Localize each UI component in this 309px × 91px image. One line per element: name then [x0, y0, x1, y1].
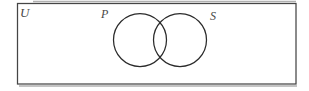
set-s-label: S — [210, 10, 216, 22]
universal-set-rectangle — [18, 4, 297, 85]
set-s-circle — [154, 14, 207, 67]
venn-diagram-canvas — [0, 0, 309, 91]
set-p-circle — [114, 14, 167, 67]
universal-set-label: U — [20, 6, 29, 19]
venn-diagram-figure: U P S — [0, 0, 309, 91]
set-p-label: P — [101, 8, 108, 20]
